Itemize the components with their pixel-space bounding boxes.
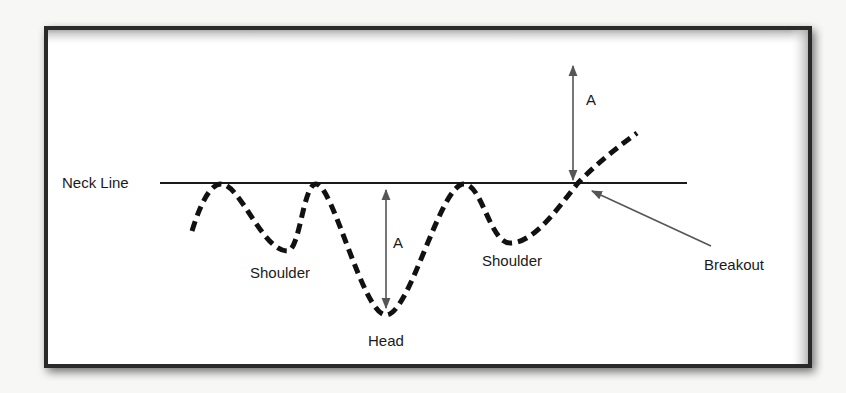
head-and-shoulders-diagram: Neck Line A A Breakout Shoulder Head Sho… [0, 0, 846, 393]
neck-line-label: Neck Line [62, 174, 129, 191]
breakout-label: Breakout [704, 256, 765, 273]
left-shoulder-label: Shoulder [250, 264, 310, 281]
head-depth-label: A [393, 234, 403, 251]
diagram-frame [46, 28, 810, 366]
head-label: Head [368, 332, 404, 349]
right-shoulder-label: Shoulder [482, 252, 542, 269]
target-height-label: A [586, 91, 596, 108]
